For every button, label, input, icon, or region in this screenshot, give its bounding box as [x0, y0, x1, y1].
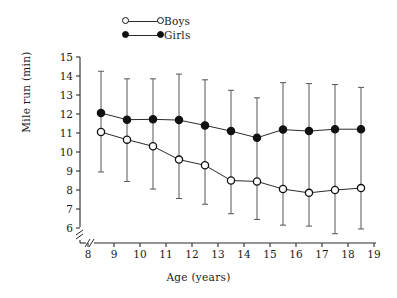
- x-tick-label: 10: [133, 248, 146, 260]
- legend-label-girls: Girls: [164, 29, 191, 41]
- legend-item-boys: Boys: [122, 14, 232, 28]
- data-point-girls: [331, 126, 338, 133]
- data-point-girls: [253, 134, 260, 141]
- x-tick-label: 19: [367, 248, 380, 260]
- x-tick-label: 11: [159, 248, 172, 260]
- data-point-boys: [175, 156, 182, 163]
- y-tick-label: 9: [66, 165, 73, 177]
- legend-item-girls: Girls: [122, 28, 232, 42]
- data-point-boys: [331, 186, 338, 193]
- y-tick-label: 12: [60, 108, 73, 120]
- data-point-boys: [97, 128, 104, 135]
- x-tick-label: 16: [289, 248, 303, 260]
- data-point-girls: [227, 128, 234, 135]
- chart-figure: Boys Girls Mile run (min) Age (years) 67…: [0, 0, 397, 298]
- data-point-boys: [227, 177, 234, 184]
- data-point-boys: [357, 185, 364, 192]
- x-axis: 8910111213141516171819: [80, 239, 381, 260]
- x-tick-label: 13: [211, 248, 224, 260]
- data-point-boys: [305, 189, 312, 196]
- x-axis-title-text: Age (years): [166, 271, 230, 283]
- legend-label-boys: Boys: [164, 15, 190, 27]
- y-tick-label: 8: [66, 184, 73, 196]
- data-point-girls: [149, 116, 156, 123]
- x-tick-label: 9: [111, 248, 118, 260]
- data-point-girls: [123, 116, 130, 123]
- data-point-girls: [97, 109, 104, 116]
- open-circle-icon: [122, 15, 164, 27]
- x-tick-label: 17: [315, 248, 328, 260]
- x-tick-label: 12: [185, 248, 198, 260]
- y-tick-label: 13: [60, 89, 73, 101]
- x-tick-label: 15: [263, 248, 276, 260]
- error-bars: [98, 71, 364, 233]
- x-axis-title: Age (years): [0, 271, 397, 283]
- y-tick-label: 10: [60, 146, 73, 158]
- y-tick-label: 7: [66, 203, 73, 215]
- data-point-boys: [149, 143, 156, 150]
- data-point-girls: [201, 122, 208, 129]
- x-tick-label: 14: [237, 248, 251, 260]
- data-point-boys: [253, 178, 260, 185]
- data-point-girls: [357, 126, 364, 133]
- x-tick-label: 8: [85, 248, 92, 260]
- y-axis: 6789101112131415: [60, 51, 83, 243]
- data-point-girls: [279, 126, 286, 133]
- data-point-boys: [201, 162, 208, 169]
- data-point-girls: [305, 128, 312, 135]
- data-point-boys: [279, 185, 286, 192]
- x-tick-label: 18: [341, 248, 354, 260]
- data-point-boys: [123, 136, 130, 143]
- y-tick-label: 6: [66, 222, 73, 234]
- y-tick-label: 15: [60, 51, 73, 63]
- y-tick-label: 14: [60, 70, 74, 82]
- y-axis-title: Mile run (min): [8, 0, 20, 92]
- data-point-girls: [175, 116, 182, 123]
- plot-area: 6789101112131415 8910111213141516171819: [0, 0, 397, 298]
- filled-circle-icon: [122, 29, 164, 41]
- y-axis-title-text: Mile run (min): [20, 51, 32, 132]
- y-tick-label: 11: [60, 127, 73, 139]
- chart-legend: Boys Girls: [122, 14, 232, 42]
